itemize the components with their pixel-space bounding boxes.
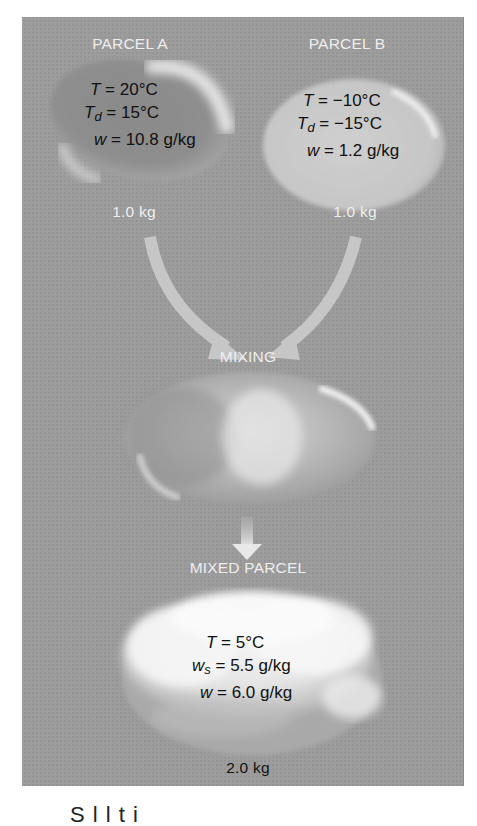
parcel-b-mixing-ratio: w = 1.2 g/kg bbox=[297, 139, 399, 162]
parcel-a-mass: 1.0 kg bbox=[112, 203, 155, 221]
figure-caption-cropped: S l l t i bbox=[70, 802, 139, 826]
parcel-b-title: PARCEL B bbox=[309, 35, 386, 53]
parcel-b-mass: 1.0 kg bbox=[333, 203, 376, 221]
mixed-parcel-values: T = 5°C ws = 5.5 g/kg w = 6.0 g/kg bbox=[192, 631, 292, 704]
parcel-a-mixing-ratio: w = 10.8 g/kg bbox=[84, 128, 196, 151]
parcel-b-dewpoint: Td = −15°C bbox=[297, 112, 399, 139]
diagram-panel: PARCEL A T = 20°C Td = 15°C w = 10.8 g/k… bbox=[22, 17, 464, 786]
down-arrow-icon bbox=[232, 517, 262, 560]
parcel-a-values: T = 20°C Td = 15°C w = 10.8 g/kg bbox=[84, 78, 196, 151]
parcel-a-title: PARCEL A bbox=[92, 35, 168, 53]
mixed-parcel-title: MIXED PARCEL bbox=[190, 559, 307, 577]
mixing-label: MIXING bbox=[220, 348, 276, 366]
parcel-a-temperature: T = 20°C bbox=[84, 78, 196, 101]
mixed-parcel-temperature: T = 5°C bbox=[192, 631, 292, 654]
parcel-b-temperature: T = −10°C bbox=[297, 89, 399, 112]
mixing-bubble bbox=[124, 372, 376, 504]
curved-arrow-right-icon bbox=[284, 237, 356, 347]
mixed-parcel-saturation-ratio: ws = 5.5 g/kg bbox=[192, 654, 292, 681]
parcel-b-values: T = −10°C Td = −15°C w = 1.2 g/kg bbox=[297, 89, 399, 162]
parcel-a-dewpoint: Td = 15°C bbox=[84, 101, 196, 128]
mixed-parcel-mass: 2.0 kg bbox=[226, 759, 269, 777]
curved-arrow-left-icon bbox=[150, 237, 227, 347]
mixed-parcel-mixing-ratio: w = 6.0 g/kg bbox=[192, 681, 292, 704]
